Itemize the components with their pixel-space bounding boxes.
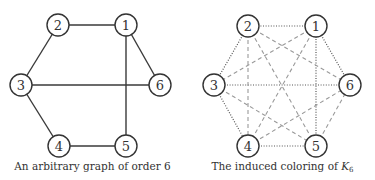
vertex-label: 2	[244, 19, 252, 34]
graph-figure-canvas: 123456 123456	[0, 0, 375, 180]
vertex-1: 1	[305, 15, 327, 37]
vertex-5: 5	[305, 135, 327, 157]
vertex-label: 1	[122, 18, 130, 33]
vertex-4: 4	[237, 135, 259, 157]
vertex-label: 2	[54, 18, 62, 33]
edge-layer	[214, 26, 350, 146]
edge-1-4	[248, 26, 316, 146]
edge-3-5	[214, 85, 316, 146]
edge-2-5	[248, 26, 316, 146]
vertex-3: 3	[10, 74, 32, 96]
vertex-2: 2	[47, 14, 69, 36]
vertex-label: 3	[210, 78, 218, 93]
vertex-4: 4	[48, 135, 70, 157]
node-layer: 123456	[203, 15, 361, 157]
edge-2-6	[248, 26, 350, 85]
vertex-label: 5	[122, 139, 130, 154]
complete-graph-order: 6	[349, 166, 353, 174]
k6-coloring-graph: 123456	[203, 15, 361, 157]
vertex-label: 6	[346, 78, 354, 93]
edge-layer	[21, 25, 160, 146]
edge-1-3	[214, 26, 316, 85]
vertex-label: 3	[17, 78, 25, 93]
vertex-5: 5	[115, 135, 137, 157]
left-caption: An arbitrary graph of order 6	[0, 160, 185, 172]
vertex-6: 6	[149, 74, 171, 96]
vertex-3: 3	[203, 74, 225, 96]
right-caption: The induced coloring of K6	[190, 160, 375, 174]
vertex-label: 4	[55, 139, 63, 154]
vertex-2: 2	[237, 15, 259, 37]
vertex-label: 1	[312, 19, 320, 34]
right-caption-text: The induced coloring of	[211, 160, 341, 172]
complete-graph-symbol: K	[341, 160, 349, 172]
vertex-label: 4	[244, 139, 252, 154]
vertex-1: 1	[115, 14, 137, 36]
vertex-6: 6	[339, 74, 361, 96]
vertex-label: 6	[156, 78, 164, 93]
vertex-label: 5	[312, 139, 320, 154]
arbitrary-graph: 123456	[10, 14, 171, 157]
edge-4-6	[248, 85, 350, 146]
